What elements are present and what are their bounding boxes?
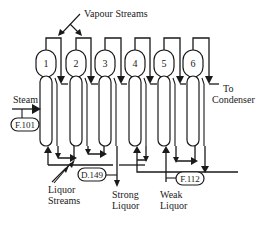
- effect-4: 4: [125, 50, 145, 146]
- weak-liquor-label-line1: Weak: [160, 189, 183, 200]
- effect-label: 6: [191, 58, 196, 69]
- steam-label: Steam: [13, 94, 38, 105]
- effect-label: 5: [162, 58, 167, 69]
- condenser-label-line2: Condenser: [212, 94, 255, 105]
- strong-liquor-label-line2: Liquor: [112, 200, 140, 211]
- liquor-streams-pointers: [52, 159, 75, 183]
- effect-label: 3: [103, 58, 108, 69]
- liquor-streams-label-line2: Streams: [48, 195, 80, 206]
- vapour-pointer-arrows: [58, 14, 82, 36]
- effect-label: 2: [74, 58, 79, 69]
- liquor-streams-label-line1: Liquor: [48, 184, 76, 195]
- svg-text:F.101: F.101: [15, 120, 35, 130]
- svg-text:D.149: D.149: [81, 170, 104, 180]
- condenser-label-line1: To: [223, 83, 233, 94]
- evaporator-flow-diagram: Vapour Streams 1: [0, 0, 264, 225]
- vapour-streams-label: Vapour Streams: [84, 8, 148, 19]
- effect-5: 5: [154, 50, 174, 146]
- weak-liquor-label-line2: Liquor: [160, 200, 188, 211]
- effect-label: 1: [44, 58, 49, 69]
- strong-liquor-label-line1: Strong: [112, 189, 139, 200]
- effect-2: 2: [66, 50, 86, 146]
- steam-flow-tag: F.101: [11, 118, 39, 131]
- weak-liquor-tag: F.112: [176, 172, 204, 185]
- strong-liquor-tag: D.149: [78, 168, 106, 181]
- effect-label: 4: [133, 58, 138, 69]
- svg-text:F.112: F.112: [180, 174, 200, 184]
- liquor-piping: [44, 146, 238, 187]
- effect-1: 1: [36, 50, 56, 146]
- effect-3: 3: [95, 50, 115, 146]
- effect-6: 6: [183, 50, 203, 146]
